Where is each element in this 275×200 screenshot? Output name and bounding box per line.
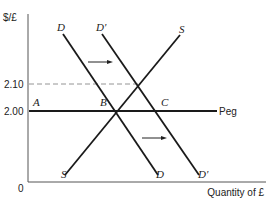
point-b-label: B <box>100 96 107 108</box>
label-d-prime-top: D' <box>95 21 107 33</box>
point-c-label: C <box>161 96 169 108</box>
label-d-top: D <box>56 21 65 33</box>
label-d-bottom: D <box>155 168 164 180</box>
y-axis-label: $/£ <box>3 12 17 23</box>
label-s-bottom: S <box>61 168 67 180</box>
label-d-prime-bottom: D' <box>197 168 209 180</box>
shift-arrow-upper <box>88 60 113 64</box>
demand-curve-d <box>63 34 158 175</box>
origin-label: 0 <box>18 183 24 194</box>
demand-curve-d-prime <box>102 34 199 175</box>
tick-2-10: 2.10 <box>4 79 24 90</box>
exchange-rate-peg-diagram: $/£ Quantity of £ 0 2.10 2.00 Peg D D' S… <box>0 0 275 200</box>
point-a-label: A <box>32 96 40 108</box>
x-axis-label: Quantity of £ <box>207 187 264 198</box>
label-s-top: S <box>179 23 185 35</box>
arrowhead-icon <box>161 136 167 140</box>
peg-label: Peg <box>219 106 237 117</box>
tick-2-00: 2.00 <box>4 106 24 117</box>
arrowhead-icon <box>107 60 113 64</box>
shift-arrow-lower <box>142 136 167 140</box>
